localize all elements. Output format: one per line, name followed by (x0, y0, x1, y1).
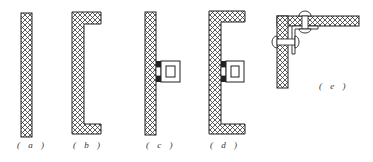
label-e: ( e ) (319, 81, 349, 91)
panel-d (209, 11, 245, 134)
clip-fastener-d (221, 61, 244, 82)
label-c: ( c ) (146, 140, 176, 150)
panel-b (72, 12, 101, 134)
clip-fastener-c (156, 61, 180, 82)
label-a: ( a ) (17, 140, 47, 150)
label-d: ( d ) (210, 140, 240, 150)
panel-c (145, 12, 180, 135)
label-b: ( b ) (73, 140, 103, 150)
panel-a (21, 13, 32, 137)
diagram-canvas (0, 0, 373, 162)
panel-e (272, 11, 359, 88)
